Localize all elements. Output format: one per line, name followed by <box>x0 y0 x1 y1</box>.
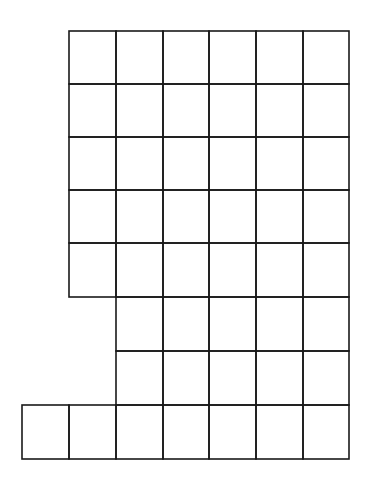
grid-cell <box>303 84 349 137</box>
grid-cell <box>69 190 116 243</box>
grid-cell <box>303 297 349 351</box>
grid-cell <box>209 137 256 190</box>
grid-cell <box>116 84 163 137</box>
grid-cell <box>69 243 116 297</box>
grid-cell <box>209 351 256 405</box>
grid-cell <box>69 84 116 137</box>
grid-cell <box>163 137 209 190</box>
grid-cell <box>303 137 349 190</box>
grid-cell <box>163 405 209 459</box>
grid-cell <box>303 190 349 243</box>
grid-cell <box>163 297 209 351</box>
grid-cell <box>116 405 163 459</box>
grid-cell <box>69 137 116 190</box>
grid-cell <box>163 190 209 243</box>
grid-cell <box>116 297 163 351</box>
grid-cell <box>116 190 163 243</box>
grid-cell <box>116 243 163 297</box>
grid-cell <box>69 405 116 459</box>
grid-cell <box>256 243 303 297</box>
grid-cell <box>303 31 349 84</box>
grid-cell <box>303 405 349 459</box>
grid-cell <box>256 190 303 243</box>
grid-cell <box>163 243 209 297</box>
grid-cell <box>256 31 303 84</box>
grid-cell <box>256 84 303 137</box>
grid-cell <box>303 351 349 405</box>
grid-cell <box>303 243 349 297</box>
grid-cell <box>22 405 69 459</box>
grid-cell <box>163 351 209 405</box>
grid-cell <box>116 137 163 190</box>
grid-cell <box>163 31 209 84</box>
grid-cell <box>116 351 163 405</box>
grid-cell <box>256 351 303 405</box>
grid-cell <box>209 190 256 243</box>
grid-figure <box>0 0 373 485</box>
grid-cell <box>256 137 303 190</box>
grid-cell <box>69 31 116 84</box>
grid-cell <box>116 31 163 84</box>
grid-cell <box>209 243 256 297</box>
grid-cell <box>209 84 256 137</box>
grid-cell <box>209 31 256 84</box>
grid-cell <box>256 297 303 351</box>
grid-cell <box>209 405 256 459</box>
grid-cell <box>163 84 209 137</box>
grid-cell <box>209 297 256 351</box>
grid-cell <box>256 405 303 459</box>
